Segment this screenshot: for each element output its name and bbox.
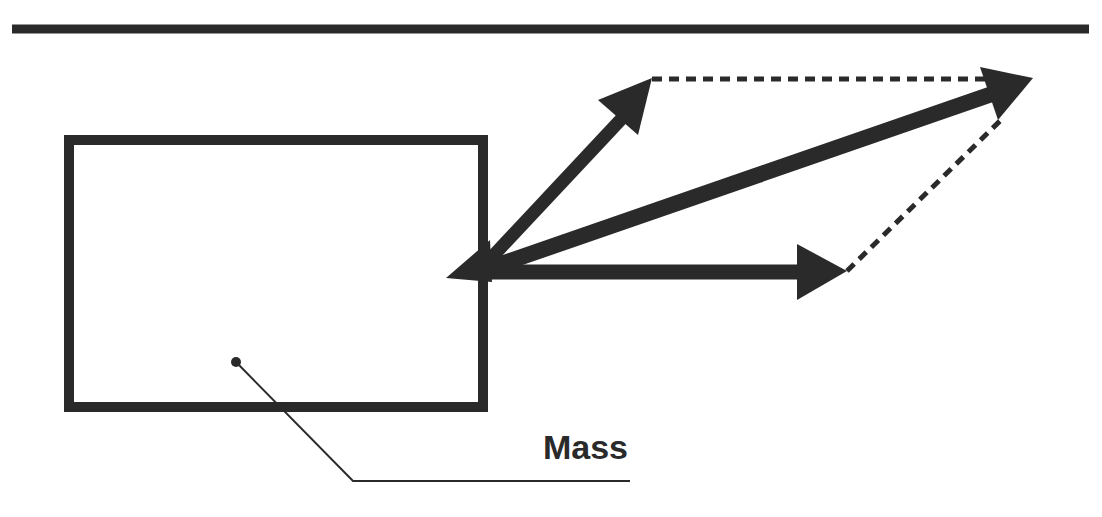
mass-box xyxy=(69,140,483,407)
vector-origin-tail xyxy=(446,240,492,282)
mass-label: Mass xyxy=(543,428,628,466)
force-diagram: Mass xyxy=(0,0,1102,517)
